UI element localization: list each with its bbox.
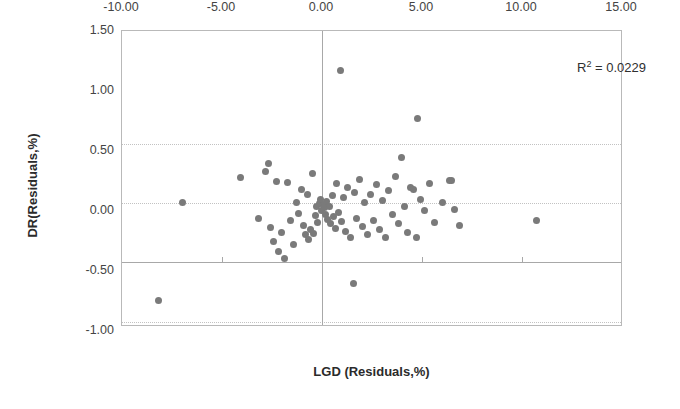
y-axis-tick-label: 1.00 <box>58 83 114 97</box>
data-point <box>350 280 357 287</box>
r-squared-annotation: R2 = 0.0229 <box>577 59 646 75</box>
data-point <box>333 180 340 187</box>
data-point <box>413 234 420 241</box>
data-point <box>373 181 380 188</box>
x-tick-mark <box>222 257 223 262</box>
data-point <box>364 231 371 238</box>
x-tick-mark <box>422 257 423 262</box>
zero-axis-vertical <box>322 31 323 325</box>
data-point <box>295 210 302 217</box>
data-point <box>385 187 392 194</box>
data-point <box>448 177 455 184</box>
data-point <box>310 230 317 237</box>
data-point <box>312 212 319 219</box>
x-axis-tick-label: -10.00 <box>81 0 161 14</box>
data-point <box>300 222 307 229</box>
x-axis-tick-label: 15.00 <box>581 0 661 14</box>
data-point <box>356 176 363 183</box>
data-point <box>421 207 428 214</box>
zero-axis-horizontal <box>122 262 621 263</box>
data-point <box>367 191 374 198</box>
data-point <box>359 223 366 230</box>
data-point <box>179 199 186 206</box>
x-axis-tick-label: 0.00 <box>281 0 361 14</box>
data-point <box>456 222 463 229</box>
data-point <box>404 229 411 236</box>
y-axis-tick-label: -1.00 <box>58 323 114 337</box>
data-point <box>314 219 321 226</box>
data-point <box>267 224 274 231</box>
data-point <box>426 180 433 187</box>
y-axis-tick-label: 0.50 <box>58 143 114 157</box>
data-point <box>326 203 333 210</box>
y-axis-tick-label: -0.50 <box>58 263 114 277</box>
data-point <box>338 218 345 225</box>
data-point <box>290 241 297 248</box>
data-point <box>329 192 336 199</box>
x-axis-tick-label: 5.00 <box>381 0 461 14</box>
data-point <box>361 199 368 206</box>
plot-area: R2 = 0.0229 <box>121 30 622 326</box>
y-axis-title: DR(Residuals,%) <box>25 96 40 276</box>
data-point <box>270 238 277 245</box>
data-point <box>353 215 360 222</box>
data-point <box>155 297 162 304</box>
data-point <box>392 173 399 180</box>
data-point <box>332 225 339 232</box>
data-point <box>265 160 272 167</box>
y-axis-tick-label: 0.00 <box>58 203 114 217</box>
data-point <box>370 217 377 224</box>
x-axis-title: LGD (Residuals,%) <box>121 364 622 379</box>
data-point <box>414 115 421 122</box>
x-axis-tick-label: 10.00 <box>481 0 561 14</box>
data-point <box>309 170 316 177</box>
gridline-y-0.50 <box>122 203 621 204</box>
data-point <box>351 189 358 196</box>
data-point <box>410 186 417 193</box>
gridline-y-1.00 <box>122 144 621 145</box>
data-point <box>337 67 344 74</box>
data-point <box>262 168 269 175</box>
data-point <box>533 217 540 224</box>
x-axis-tick-label: -5.00 <box>181 0 261 14</box>
data-point <box>395 220 402 227</box>
data-point <box>398 154 405 161</box>
data-point <box>344 184 351 191</box>
data-point <box>382 234 389 241</box>
data-point <box>278 229 285 236</box>
scatter-chart-figure: DR(Residuals,%) LGD (Residuals,%) 1.50 1… <box>0 0 680 409</box>
data-point <box>275 248 282 255</box>
data-point <box>417 196 424 203</box>
x-tick-mark <box>522 257 523 262</box>
data-point <box>347 234 354 241</box>
data-point <box>237 174 244 181</box>
data-point <box>284 179 291 186</box>
data-point <box>335 209 342 216</box>
data-point <box>451 206 458 213</box>
data-point <box>273 178 280 185</box>
data-point <box>305 236 312 243</box>
data-point <box>281 255 288 262</box>
y-axis-tick-label: 1.50 <box>58 23 114 37</box>
gridline-y--0.50 <box>122 322 621 323</box>
data-point <box>376 226 383 233</box>
data-point <box>439 199 446 206</box>
data-point <box>340 194 347 201</box>
data-point <box>379 197 386 204</box>
data-point <box>255 215 262 222</box>
data-point <box>389 211 396 218</box>
data-point <box>304 191 311 198</box>
data-point <box>401 203 408 210</box>
data-point <box>431 219 438 226</box>
data-point <box>287 217 294 224</box>
data-point <box>293 199 300 206</box>
